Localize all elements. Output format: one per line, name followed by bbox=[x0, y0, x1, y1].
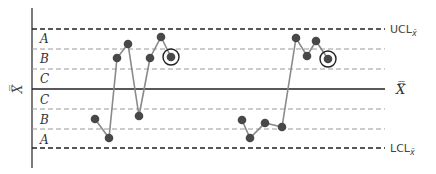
data-point bbox=[135, 112, 144, 121]
data-point bbox=[91, 115, 100, 124]
data-point bbox=[292, 34, 301, 43]
series-line bbox=[242, 38, 328, 138]
data-point bbox=[278, 123, 287, 132]
data-point bbox=[238, 116, 247, 125]
zone-label-lower-a: A bbox=[39, 133, 49, 147]
series-1 bbox=[91, 33, 179, 143]
center-label: X̿ bbox=[395, 81, 406, 97]
data-point bbox=[167, 53, 176, 62]
zone-label-lower-b: B bbox=[39, 113, 49, 127]
zone-label-upper-a: A bbox=[39, 32, 49, 46]
data-point bbox=[261, 119, 270, 128]
zone-label-lower-c: C bbox=[40, 93, 49, 107]
data-point bbox=[124, 40, 133, 49]
ucl-label: UCLx̄ bbox=[390, 23, 417, 38]
data-point bbox=[312, 37, 321, 46]
series-2 bbox=[238, 34, 336, 143]
data-point bbox=[113, 54, 122, 63]
data-point bbox=[105, 134, 114, 143]
data-point bbox=[146, 54, 155, 63]
series-line bbox=[95, 37, 171, 138]
zone-label-upper-b: B bbox=[39, 52, 49, 66]
control-chart: A B C C B A X̿ UCLx̄ X̿ LCLx̄ bbox=[0, 0, 436, 174]
y-axis-label: X̿ bbox=[9, 84, 25, 94]
data-point bbox=[157, 33, 166, 42]
lcl-label: LCLx̄ bbox=[390, 142, 415, 157]
data-point bbox=[303, 52, 312, 61]
data-point bbox=[324, 55, 333, 64]
zone-label-upper-c: C bbox=[40, 72, 49, 86]
data-point bbox=[246, 134, 255, 143]
